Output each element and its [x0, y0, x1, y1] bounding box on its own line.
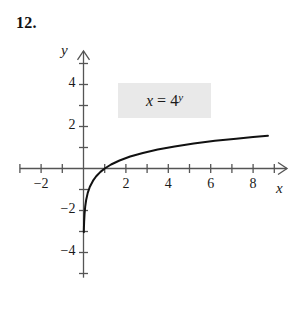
y-tick-label: −4: [44, 243, 76, 259]
y-tick-label: 4: [44, 75, 76, 91]
figure-container: 12. x=4y y x −2246842−2−4: [0, 0, 298, 311]
x-tick-label: 6: [196, 176, 226, 192]
x-tick-label: −2: [26, 176, 56, 192]
coordinate-plot: [0, 0, 298, 311]
x-tick-label: 4: [153, 176, 183, 192]
x-tick-label: 2: [111, 176, 141, 192]
y-tick-label: 2: [44, 117, 76, 133]
y-tick-label: −2: [44, 201, 76, 217]
x-tick-label: 8: [238, 176, 268, 192]
